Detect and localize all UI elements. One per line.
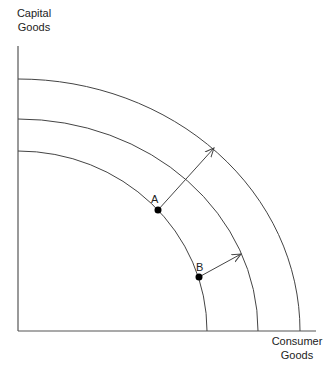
point-a-label: A (151, 192, 158, 206)
arrow-a (158, 148, 214, 210)
x-axis-label-line1: Consumer (262, 334, 332, 348)
middle-ppf-curve (18, 119, 258, 331)
point-b-dot (196, 274, 203, 281)
x-axis-label-line2: Goods (262, 348, 332, 362)
point-b-label: B (196, 260, 203, 274)
ppf-diagram (0, 0, 336, 372)
inner-ppf-curve (18, 151, 207, 331)
x-axis-label: Consumer Goods (262, 334, 332, 362)
arrow-b (199, 254, 241, 277)
outer-ppf-curve (18, 79, 300, 331)
point-a-dot (155, 207, 162, 214)
